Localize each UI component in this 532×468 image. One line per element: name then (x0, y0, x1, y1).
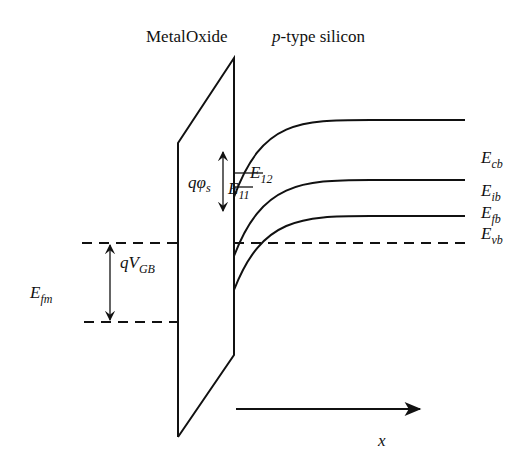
oxide-label: Oxide (186, 27, 228, 46)
surface-potential-label: qφs (188, 173, 211, 195)
efb-label: Efb (480, 203, 501, 226)
ecb-label: Ecb (480, 148, 503, 171)
intrinsic-level-curve (234, 180, 465, 256)
efm-label: Efm (29, 283, 53, 306)
mos-band-diagram: Metal Oxide p-type silicon Ecb Eib Efb E… (0, 0, 532, 468)
valence-band-curve (234, 216, 465, 290)
gate-voltage-label: qVGB (120, 253, 156, 276)
e12-label: E12 (249, 163, 272, 186)
evb-label: Evb (480, 224, 503, 247)
metal-label: Metal (146, 27, 186, 46)
oxide-shape (178, 58, 234, 437)
eib-label: Eib (480, 181, 501, 204)
e11-label: E11 (227, 179, 250, 202)
x-axis-label: x (377, 431, 386, 450)
silicon-label: p-type silicon (271, 27, 366, 46)
